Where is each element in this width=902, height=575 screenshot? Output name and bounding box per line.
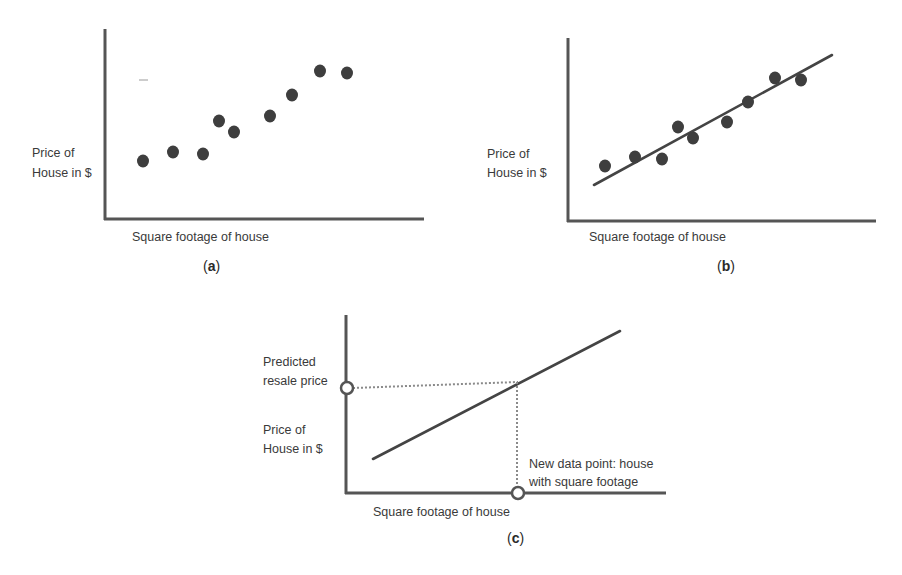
data-point [197, 148, 209, 161]
data-point [599, 160, 611, 173]
data-point [167, 146, 179, 159]
panel-c-caption: (c) [507, 530, 524, 546]
data-point [795, 74, 807, 87]
data-point [213, 115, 225, 128]
panel-b-regression-fit: Price of House in $ Square footage of ho… [487, 38, 876, 274]
predicted-label-line2: resale price [263, 374, 328, 388]
new-point-label-line1: New data point: house [529, 457, 653, 471]
panel-b-y-label-line1: Price of [487, 147, 530, 161]
data-point [769, 72, 781, 85]
panel-b-y-label-line2: House in $ [487, 166, 547, 180]
panel-a-x-label: Square footage of house [132, 230, 269, 244]
predicted-label-line1: Predicted [263, 355, 316, 369]
panel-a-caption-letter: a [208, 258, 216, 274]
predicted-price-marker [341, 382, 353, 394]
panel-b-regression-line [594, 55, 832, 185]
panel-a-y-label-line2: House in $ [32, 166, 92, 180]
regression-figure: Price of House in $ Square footage of ho… [0, 0, 902, 575]
panel-c-y-label-line1: Price of [263, 423, 306, 437]
panel-c-horizontal-guide [353, 382, 518, 388]
panel-b-caption: (b) [717, 258, 735, 274]
panel-c-y-label-line2: House in $ [263, 442, 323, 456]
data-point [742, 96, 754, 109]
panel-c-caption-letter: c [512, 530, 520, 546]
panel-a-data-points [137, 65, 353, 168]
panel-a-scatter: Price of House in $ Square footage of ho… [32, 29, 424, 274]
data-point [672, 121, 684, 134]
data-point [721, 116, 733, 129]
data-point [228, 126, 240, 139]
panel-b-x-label: Square footage of house [589, 230, 726, 244]
new-data-point-marker [512, 487, 524, 499]
panel-a-y-label-line1: Price of [32, 146, 75, 160]
data-point [629, 151, 641, 164]
data-point [314, 65, 326, 78]
new-point-label-line2: with square footage [528, 475, 638, 489]
panel-a-caption: (a) [203, 258, 220, 274]
panel-c-prediction: Predicted resale price Price of House in… [263, 315, 666, 546]
data-point [687, 132, 699, 145]
data-point [264, 110, 276, 123]
data-point [341, 67, 353, 80]
data-point [286, 89, 298, 102]
panel-c-x-label: Square footage of house [373, 505, 510, 519]
panel-b-caption-letter: b [722, 258, 731, 274]
data-point [137, 155, 149, 168]
panel-c-regression-line [373, 331, 620, 459]
data-point [656, 153, 668, 166]
